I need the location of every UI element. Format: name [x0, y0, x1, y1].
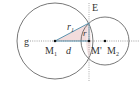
- point-m2: [104, 40, 107, 43]
- label-d: d: [66, 45, 72, 56]
- label-g: g: [24, 36, 29, 47]
- label-m-prime: M': [91, 45, 102, 56]
- point-m-prime: [88, 40, 91, 43]
- point-m1: [54, 40, 57, 43]
- label-r: r: [83, 28, 87, 38]
- label-r1: r1: [67, 21, 74, 33]
- label-e: E: [92, 2, 98, 13]
- label-m2: M2: [107, 45, 119, 57]
- two-circle-diagram: g M1 d M' M2 r1 r E: [0, 0, 140, 86]
- label-m1: M1: [45, 45, 57, 57]
